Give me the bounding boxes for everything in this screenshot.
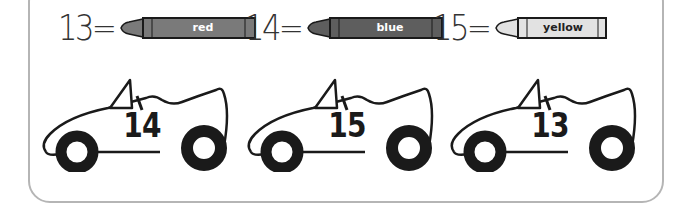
equals-sign: = bbox=[92, 11, 117, 46]
equals-sign: = bbox=[279, 11, 304, 46]
key-number: 15 bbox=[433, 10, 467, 46]
race-car-2[interactable]: 15 bbox=[243, 72, 443, 172]
race-car-3[interactable]: 13 bbox=[446, 72, 646, 172]
crayon-yellow: yellow bbox=[494, 17, 634, 39]
crayon-label: blue bbox=[350, 17, 430, 39]
crayon-blue: blue bbox=[306, 17, 446, 39]
car-number: 14 bbox=[123, 106, 160, 145]
equals-sign: = bbox=[467, 11, 492, 46]
crayon-red: red bbox=[119, 17, 259, 39]
car-number: 15 bbox=[328, 106, 365, 145]
race-car-1[interactable]: 14 bbox=[38, 72, 238, 172]
crayon-label: red bbox=[163, 17, 243, 39]
crayon-label: yellow bbox=[528, 17, 598, 39]
color-key-13: 13 = red bbox=[58, 10, 259, 46]
key-number: 13 bbox=[58, 10, 92, 46]
key-number: 14 bbox=[245, 10, 279, 46]
color-key-14: 14 = blue bbox=[245, 10, 446, 46]
car-number: 13 bbox=[531, 106, 568, 145]
color-key-15: 15 = yellow bbox=[433, 10, 634, 46]
